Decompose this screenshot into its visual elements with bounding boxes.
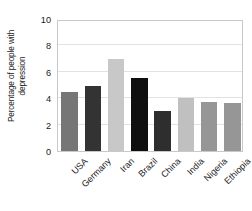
- bar-series: [58, 21, 242, 151]
- bar: [131, 78, 148, 151]
- bar: [108, 59, 125, 151]
- x-axis-tick-labels: USAGermanyIranBrazilChinaIndiaNigeriaEth…: [57, 152, 243, 211]
- y-axis-tick-label: 0: [46, 147, 51, 157]
- y-axis-tick-label: 6: [46, 68, 51, 78]
- bar: [201, 102, 218, 151]
- y-axis-title-line-2: depression: [17, 30, 28, 122]
- plot-area: [57, 20, 243, 152]
- bar: [61, 92, 78, 151]
- y-axis-title-line-1: Percentage of people with: [7, 30, 16, 122]
- bar: [224, 103, 241, 151]
- bar-chart-figure: Percentage of people with depression 024…: [0, 0, 252, 211]
- bar: [154, 111, 171, 151]
- y-axis-title-text: Percentage of people with depression: [7, 30, 28, 122]
- bar: [85, 86, 102, 151]
- y-axis-tick-label: 10: [41, 15, 51, 25]
- y-axis-tick-label: 2: [46, 121, 51, 131]
- bar: [178, 98, 195, 151]
- y-axis-tick-label: 4: [46, 94, 51, 104]
- y-axis-tick-labels: 0246810: [32, 20, 54, 152]
- y-axis-tick-label: 8: [46, 41, 51, 51]
- y-axis-title: Percentage of people with depression: [0, 0, 34, 152]
